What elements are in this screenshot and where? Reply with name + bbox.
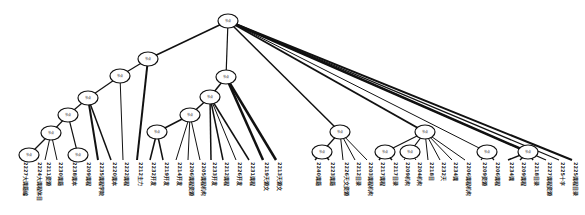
tree-edge (148, 21, 228, 59)
svg-text:2206课程: 2206课程 (494, 162, 501, 186)
leaf-label: 2213天源文 (276, 162, 283, 192)
svg-text:节点: 节点 (407, 149, 413, 154)
leaf-label: 2235课程学院 (98, 162, 105, 196)
svg-text:2240课籍: 2240课籍 (315, 162, 322, 186)
svg-text:节点: 节点 (525, 149, 531, 154)
leaf-label: 2209课程 (520, 162, 527, 186)
leaf-label: 2232天 (440, 162, 447, 182)
svg-text:节点: 节点 (154, 129, 160, 134)
svg-text:2217目录: 2217目录 (392, 162, 399, 186)
tree-node: 节点 (138, 52, 158, 66)
leaf-label: 2205课程机构 (200, 162, 207, 196)
tree-node: 节点 (78, 91, 98, 105)
leaf-label: 2206课程资源 (188, 162, 195, 196)
svg-text:2206课程资源: 2206课程资源 (188, 162, 195, 196)
leaf-label: 2225十字 (559, 162, 566, 186)
svg-text:2219天源文: 2219天源文 (263, 162, 270, 192)
svg-text:2206课程机构: 2206课程机构 (465, 162, 472, 196)
leaf-edge (228, 21, 572, 160)
svg-text:2220课本: 2220课本 (111, 162, 118, 187)
svg-text:节点: 节点 (65, 112, 71, 117)
svg-text:2217课程: 2217课程 (379, 162, 386, 186)
leaf-label: 2238课本 (71, 162, 78, 187)
svg-text:2227大课籍编: 2227大课籍编 (22, 162, 29, 196)
svg-text:节点: 节点 (187, 112, 193, 117)
svg-text:2226天文资源: 2226天文资源 (343, 162, 350, 196)
svg-text:2214开发: 2214开发 (176, 162, 183, 187)
leaf-label: 2226天文资源 (343, 162, 350, 196)
svg-text:2218目录: 2218目录 (533, 162, 540, 186)
svg-text:2218目: 2218目 (428, 162, 435, 181)
leaf-edge (137, 59, 148, 160)
tree-edge (226, 21, 228, 77)
leaf-label: 2222课程 (123, 162, 130, 186)
leaf-label: 2209资源 (481, 162, 488, 186)
svg-text:2209课程: 2209课程 (85, 162, 92, 186)
svg-text:2219开发: 2219开发 (163, 162, 170, 187)
leaf-label: 2212主力 (137, 162, 144, 186)
tree-edge (228, 21, 487, 152)
leaf-label: 2218目录 (533, 162, 540, 186)
leaf-label: 2218目 (428, 162, 435, 181)
tree-node: 节点 (415, 125, 435, 139)
leaf-edge (88, 98, 98, 160)
tree-node: 节点 (330, 125, 350, 139)
tree-node: 节点 (216, 70, 236, 84)
tree-node: 节点 (400, 145, 420, 159)
svg-text:2230课籍: 2230课籍 (57, 162, 64, 186)
svg-text:节点: 节点 (207, 94, 213, 99)
svg-text:2225十字: 2225十字 (559, 162, 566, 186)
svg-text:2232天: 2232天 (440, 162, 447, 182)
leaf-label: 2220课本 (111, 162, 118, 187)
leaf-label: 2231课程 (249, 162, 256, 186)
tree-node: 节点 (375, 145, 395, 159)
leaf-edge (210, 97, 236, 160)
svg-text:节点: 节点 (337, 129, 343, 134)
tree-node: 节点 (110, 69, 130, 83)
svg-text:2213天源文: 2213天源文 (276, 162, 283, 192)
leaf-edge (226, 77, 263, 160)
svg-text:2226开发: 2226开发 (236, 162, 243, 187)
leaf-label: 2227课程资源 (546, 162, 553, 196)
leaf-label: 2240课籍 (315, 162, 322, 186)
tree-node: 节点 (41, 126, 61, 140)
svg-text:2205课程机构: 2205课程机构 (200, 162, 207, 196)
leaf-label: 2232开发 (150, 162, 157, 187)
leaf-edge (210, 97, 211, 160)
tree-node: 节点 (200, 90, 220, 104)
leaf-label: 2211资源 (45, 162, 52, 186)
svg-text:2212课程: 2212课程 (223, 162, 230, 186)
leaf-label: 2225课程目录 (572, 162, 579, 196)
svg-text:2235课程学院: 2235课程学院 (98, 162, 105, 196)
tree-node: 节点 (58, 108, 78, 122)
svg-text:2231课程: 2231课程 (249, 162, 256, 186)
tree-node: 节点 (147, 125, 167, 139)
leaf-label: 2214开发 (176, 162, 183, 187)
edges (22, 21, 572, 160)
tree-node: 节点 (218, 14, 238, 28)
tree-edge (228, 21, 425, 132)
tree-node: 节点 (518, 145, 538, 159)
svg-text:2209课程: 2209课程 (520, 162, 527, 186)
svg-text:2203课程机构: 2203课程机构 (367, 162, 374, 196)
leaf-label: 2217目录 (392, 162, 399, 186)
svg-text:2227课程资源: 2227课程资源 (546, 162, 553, 196)
svg-text:2234课: 2234课 (508, 162, 515, 182)
svg-text:2209机构: 2209机构 (404, 162, 411, 186)
svg-text:节点: 节点 (484, 149, 490, 154)
leaf-label: 2219天源文 (263, 162, 270, 192)
leaf-label: 2212目录 (355, 162, 362, 186)
tree-edge (228, 21, 340, 132)
svg-text:节点: 节点 (117, 73, 123, 78)
tree-node: 节点 (312, 145, 332, 159)
svg-text:节点: 节点 (223, 74, 229, 79)
leaf-label: 2212课程 (223, 162, 230, 186)
leaf-label: 2234课 (452, 162, 459, 182)
leaf-label: 2230课籍 (57, 162, 64, 186)
leaf-edge (120, 76, 123, 160)
svg-text:2232开发: 2232开发 (150, 162, 157, 187)
svg-text:2212主力: 2212主力 (137, 162, 144, 186)
svg-text:节点: 节点 (225, 18, 231, 23)
svg-text:节点: 节点 (319, 149, 325, 154)
tree-node: 节点 (19, 148, 39, 162)
